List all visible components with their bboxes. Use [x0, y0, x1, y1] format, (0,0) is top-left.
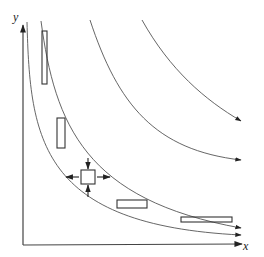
- streamlines: [27, 20, 241, 235]
- streamline-2: [41, 21, 241, 228]
- fluid-element-flat: [181, 217, 232, 222]
- fluid-element-mid: [57, 118, 65, 148]
- x-axis: [23, 244, 242, 245]
- streamline-diagram: [0, 0, 264, 257]
- streamline-4: [142, 20, 241, 121]
- fluid-element-tall: [42, 31, 47, 84]
- streamline-3: [90, 20, 241, 160]
- fluid-element-square: [81, 170, 95, 184]
- strain-arrows: [66, 158, 110, 197]
- x-axis-label: x: [243, 240, 248, 252]
- axes: [23, 25, 242, 245]
- streamline-1: [27, 22, 241, 235]
- y-axis-label: y: [13, 11, 18, 23]
- fluid-element-wide: [117, 200, 147, 208]
